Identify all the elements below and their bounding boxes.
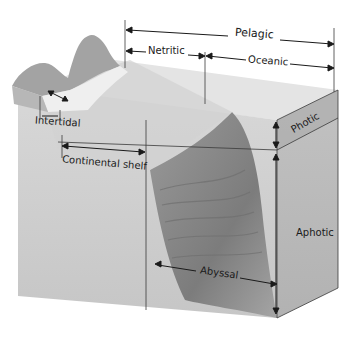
label-aphotic: Aphotic [296, 228, 334, 238]
oceanic-arrow-left [208, 56, 246, 60]
label-neritic: Netritic [148, 46, 185, 56]
pelagic-arrow-right [280, 40, 332, 44]
pelagic-arrow-left [128, 30, 228, 36]
oceanic-arrow-right [290, 64, 332, 68]
label-pelagic: Pelagic [235, 27, 275, 41]
